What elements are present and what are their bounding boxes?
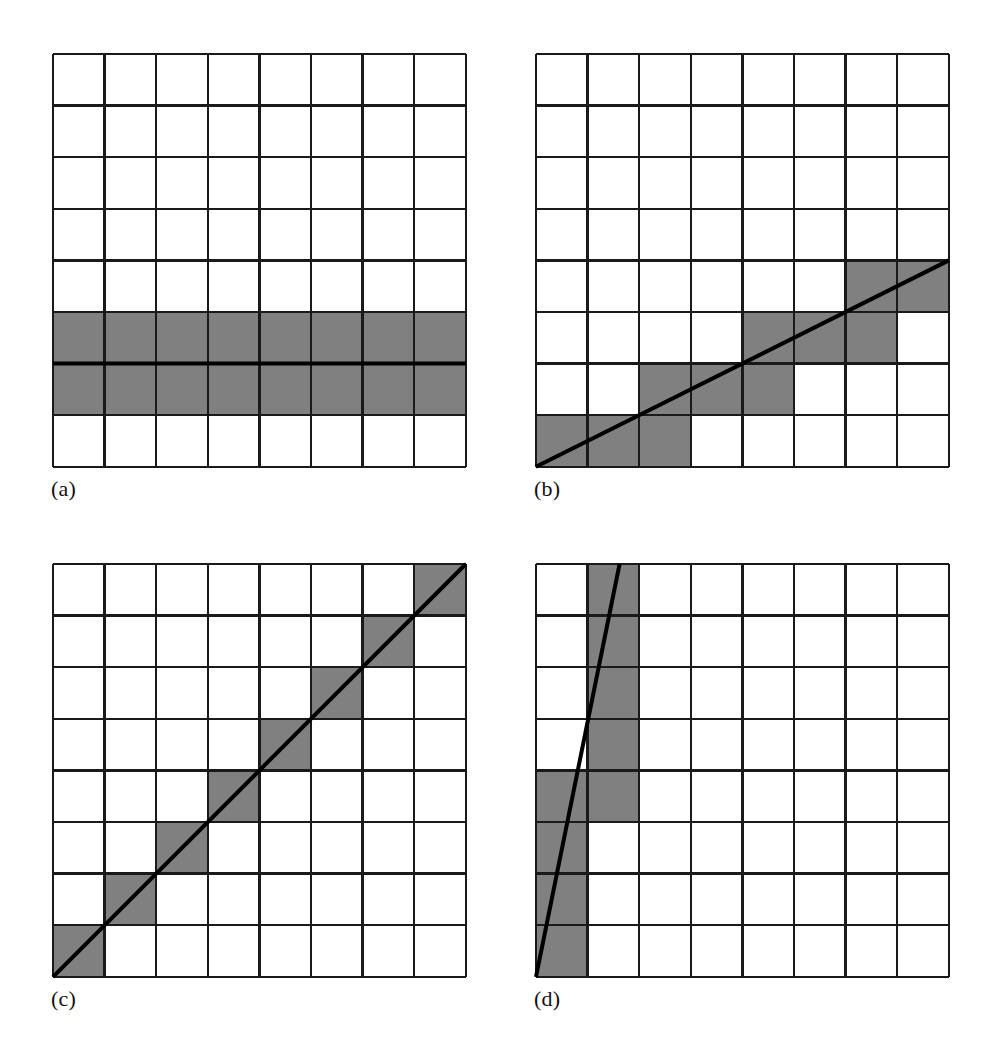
panel-c-grid [49, 560, 470, 981]
shaded-cell [588, 719, 640, 771]
shaded-cell [794, 312, 846, 364]
shaded-cell [742, 364, 794, 416]
shaded-cell [536, 874, 588, 926]
panel-d-grid [532, 560, 953, 981]
panel-d-label: (d) [534, 988, 560, 1010]
shaded-cell [639, 415, 691, 467]
shaded-cell [259, 312, 311, 364]
shaded-cell [414, 364, 466, 416]
shaded-cell [846, 260, 898, 312]
shaded-cell [156, 312, 208, 364]
shaded-cell [208, 364, 260, 416]
shaded-cell [208, 312, 260, 364]
shaded-cell [363, 312, 415, 364]
panel-a-grid [49, 50, 470, 471]
shaded-cell [639, 364, 691, 416]
shaded-cell [588, 770, 640, 822]
panel-c [49, 560, 470, 981]
shaded-cell [53, 364, 105, 416]
panel-b-label: (b) [534, 478, 560, 500]
shaded-cell [691, 364, 743, 416]
shaded-cell [259, 364, 311, 416]
rasterized-line-figure: (a)(b)(c)(d) [0, 0, 996, 1043]
shaded-cell [897, 260, 949, 312]
panel-b [532, 50, 953, 471]
shaded-cell [53, 312, 105, 364]
panel-a-label: (a) [51, 478, 76, 500]
shaded-cell [156, 364, 208, 416]
shaded-cell [846, 312, 898, 364]
panel-d [532, 560, 953, 981]
shaded-cell [414, 312, 466, 364]
panel-a [49, 50, 470, 471]
shaded-cell [311, 364, 363, 416]
panel-c-label: (c) [51, 988, 76, 1010]
shaded-cell [588, 415, 640, 467]
shaded-cell [588, 616, 640, 668]
shaded-cell [536, 415, 588, 467]
shaded-cell [105, 312, 157, 364]
panel-b-grid [532, 50, 953, 471]
shaded-cell [742, 312, 794, 364]
shaded-cell [311, 312, 363, 364]
shaded-cell [536, 770, 588, 822]
shaded-cell [105, 364, 157, 416]
shaded-cell [363, 364, 415, 416]
